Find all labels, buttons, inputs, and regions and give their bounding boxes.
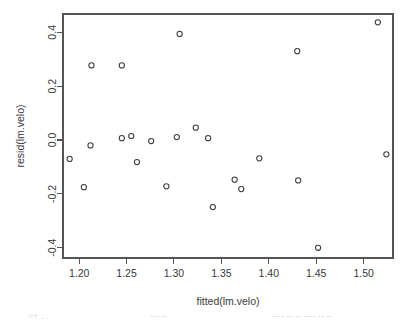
x-axis-title: fitted(lm.velo)	[196, 295, 259, 307]
x-tick-label: 1.20	[69, 267, 90, 279]
data-point	[89, 63, 94, 68]
y-axis-title: resid(lm.velo)	[14, 104, 26, 167]
data-point	[193, 125, 198, 130]
x-axis: 1.201.251.301.351.401.451.50	[69, 258, 374, 279]
scatter-plot-figure: 1.201.251.301.351.401.451.50 0.40.20.0-0…	[0, 0, 410, 322]
x-tick-label: 1.50	[353, 267, 374, 279]
data-point	[67, 156, 72, 161]
data-point	[88, 143, 93, 148]
data-point	[239, 186, 244, 191]
data-point	[164, 184, 169, 189]
data-point	[119, 63, 124, 68]
y-tick-label: 0.0	[46, 133, 58, 148]
data-point	[232, 177, 237, 182]
data-point	[210, 205, 215, 210]
data-point	[296, 178, 301, 183]
data-point	[81, 185, 86, 190]
y-tick-label: 0.4	[46, 25, 58, 40]
x-tick-label: 1.25	[116, 267, 137, 279]
data-point	[315, 245, 320, 250]
plot-box	[63, 14, 393, 258]
data-point	[149, 139, 154, 144]
data-point	[129, 133, 134, 138]
data-point	[257, 156, 262, 161]
y-axis: 0.40.20.0-0.2-0.4	[46, 25, 63, 257]
data-point	[295, 49, 300, 54]
plot-canvas: 1.201.251.301.351.401.451.50 0.40.20.0-0…	[0, 0, 410, 322]
data-point	[375, 20, 380, 25]
data-point	[119, 136, 124, 141]
data-point	[177, 31, 182, 36]
data-point	[384, 152, 389, 157]
y-tick-label: -0.4	[46, 239, 58, 257]
data-point	[134, 160, 139, 165]
data-point	[205, 136, 210, 141]
data-point	[174, 134, 179, 139]
x-tick-label: 1.35	[211, 267, 232, 279]
y-tick-label: -0.2	[46, 185, 58, 203]
x-tick-label: 1.40	[259, 267, 280, 279]
x-tick-label: 1.30	[164, 267, 185, 279]
data-points	[67, 20, 389, 251]
x-tick-label: 1.45	[306, 267, 327, 279]
y-tick-label: 0.2	[46, 79, 58, 94]
